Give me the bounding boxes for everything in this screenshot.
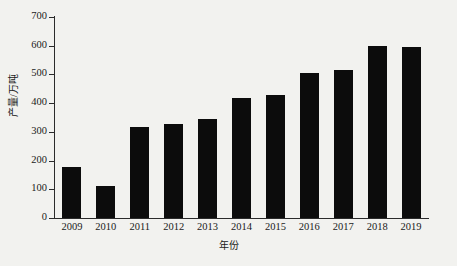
x-axis-line (54, 218, 429, 219)
y-axis-tick-label: 0 (5, 212, 47, 223)
y-axis-tick (49, 218, 55, 219)
bar (130, 127, 149, 218)
y-axis-tick-label: 200 (5, 155, 47, 166)
bar (232, 98, 251, 218)
bar (334, 70, 353, 218)
plot-area (55, 17, 428, 218)
x-axis-tick-label: 2019 (391, 222, 431, 233)
bar (266, 95, 285, 218)
y-axis-tick-label: 100 (5, 183, 47, 194)
bar (300, 73, 319, 218)
y-axis-tick-label: 600 (5, 40, 47, 51)
bar (164, 124, 183, 218)
y-axis-tick-label: 700 (5, 11, 47, 22)
bar (198, 119, 217, 218)
y-axis-title: 产量/万吨 (5, 56, 20, 136)
bar (62, 167, 81, 218)
bar (96, 186, 115, 218)
bar (402, 47, 421, 218)
bar-chart: 0100200300400500600700 产量/万吨 20092010201… (0, 0, 457, 266)
bar (368, 46, 387, 218)
x-axis-title: 年份 (0, 237, 457, 252)
